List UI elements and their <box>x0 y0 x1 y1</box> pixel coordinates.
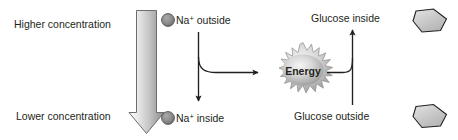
na-outside-ion <box>162 14 175 27</box>
sodium-to-energy-arrow <box>199 57 259 73</box>
na-outside-location: outside <box>194 14 231 26</box>
label-na-inside: Na+ inside <box>176 113 224 124</box>
label-na-outside: Na+ outside <box>176 15 231 26</box>
concentration-gradient-arrow <box>129 11 164 134</box>
label-lower-concentration: Lower concentration <box>16 111 111 122</box>
label-higher-concentration: Higher concentration <box>14 19 111 30</box>
na-inside-charge: + <box>189 112 193 121</box>
na-inside-symbol: Na <box>176 112 189 124</box>
na-inside-ion <box>162 112 175 125</box>
na-outside-symbol: Na <box>176 14 189 26</box>
na-outside-charge: + <box>189 14 193 23</box>
label-glucose-outside: Glucose outside <box>294 111 369 122</box>
glucose-outside-hexagon <box>413 105 447 128</box>
na-inside-location: inside <box>194 112 224 124</box>
glucose-inside-hexagon <box>413 9 447 32</box>
label-glucose-inside: Glucose inside <box>311 13 380 24</box>
label-energy: Energy <box>274 65 332 77</box>
transport-diagram: Higher concentration Lower concentration… <box>0 0 458 140</box>
